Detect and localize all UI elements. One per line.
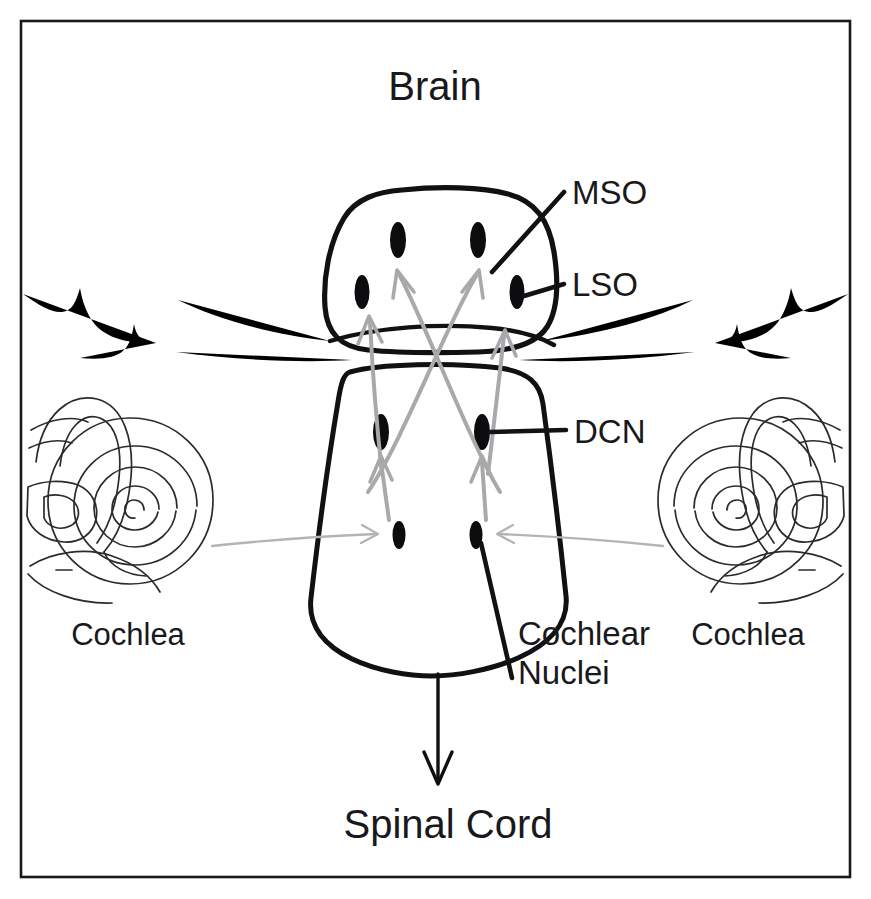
auditory-nerve-left: [212, 525, 378, 546]
diagram-canvas: Brain MSO LSO DCN Cochlear Nuclei Cochle…: [0, 0, 871, 899]
label-cochlea-right: Cochlea: [691, 617, 805, 652]
label-mso: MSO: [572, 174, 647, 211]
pathway-cn-left-to-lso-left: [358, 316, 382, 474]
nucleus-lso-left: [355, 275, 370, 309]
cerebellar-folia-left: [23, 288, 352, 361]
nucleus-mso-left: [390, 222, 406, 258]
nucleus-vcn-left: [393, 521, 406, 549]
leader-line-cochlear-nuclei: [481, 543, 512, 678]
cochlea-left: [27, 398, 213, 603]
cochlea-right: [658, 398, 844, 603]
leader-line-dcn: [490, 430, 566, 432]
page-title-brain: Brain: [388, 64, 481, 108]
label-cochlea-left: Cochlea: [71, 617, 185, 652]
label-dcn: DCN: [574, 413, 646, 450]
label-lso: LSO: [572, 266, 638, 303]
pathway-cn-right-to-mso-left: [393, 270, 500, 492]
cerebellar-folia-right: [519, 288, 848, 361]
label-cochlear-nuclei-line1: Cochlear: [518, 615, 650, 652]
page-title-spinal-cord: Spinal Cord: [343, 802, 552, 846]
nucleus-lso-right: [510, 275, 525, 309]
figure-border: [21, 21, 850, 877]
auditory-pathway-figure: Brain MSO LSO DCN Cochlear Nuclei Cochle…: [0, 0, 871, 899]
nucleus-mso-right: [470, 222, 486, 258]
auditory-nerve-right: [497, 525, 663, 546]
label-cochlear-nuclei-line2: Nuclei: [518, 654, 610, 691]
pathway-cn-left-to-mso-right: [368, 270, 483, 492]
spinal-cord-arrow: [424, 674, 452, 784]
